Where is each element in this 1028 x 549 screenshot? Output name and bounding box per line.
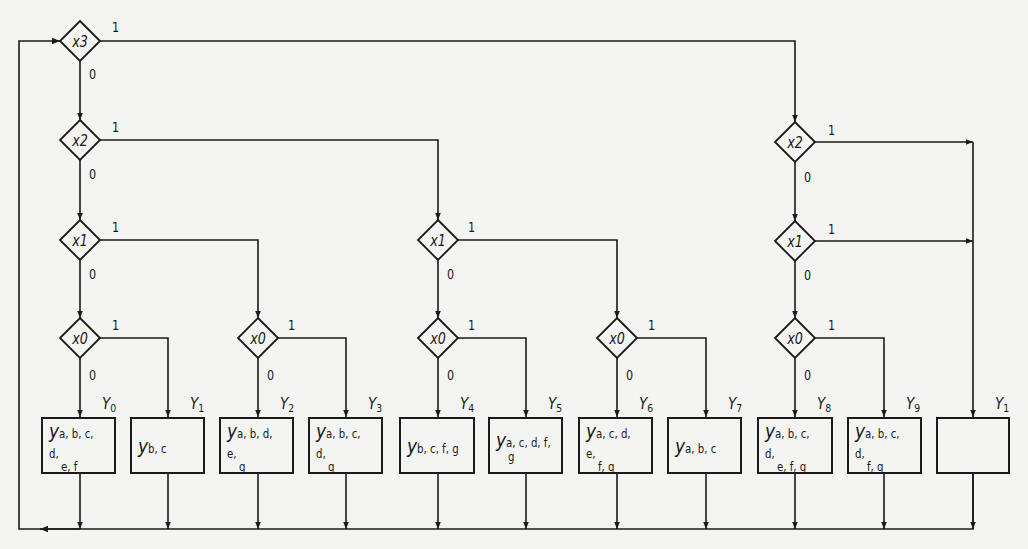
branch-label-0: 0 bbox=[804, 368, 811, 382]
branch-label-1: 1 bbox=[468, 318, 475, 332]
branch-label-0: 0 bbox=[89, 67, 96, 81]
branch-label-0: 0 bbox=[804, 170, 811, 184]
state-box-y7: ya, b, c bbox=[667, 417, 742, 474]
state-box-empty bbox=[936, 417, 1010, 474]
branch-label-0: 0 bbox=[804, 268, 811, 282]
state-box-y8: ya, b, c, d,e, f, g bbox=[757, 417, 833, 474]
branch-label-0: 0 bbox=[89, 167, 96, 181]
state-box-y3: ya, b, c, d,g bbox=[308, 417, 383, 474]
branch-label-1: 1 bbox=[828, 123, 835, 137]
state-label: Y7 bbox=[728, 396, 742, 414]
flowchart-canvas: x3 x2 x1 x0 x0 x1 x0 x0 x2 x1 x0 1 1 1 1… bbox=[0, 0, 1028, 549]
state-label: Y9 bbox=[906, 396, 920, 414]
branch-label-1: 1 bbox=[112, 318, 119, 332]
branch-label-1: 1 bbox=[828, 318, 835, 332]
state-label: Y1 bbox=[995, 396, 1009, 414]
branch-label-1: 1 bbox=[112, 20, 119, 34]
state-label: Y4 bbox=[460, 396, 474, 414]
decision-label: x1 bbox=[430, 234, 446, 249]
branch-label-0: 0 bbox=[89, 368, 96, 382]
state-label: Y8 bbox=[817, 396, 831, 414]
decision-label: x1 bbox=[787, 235, 803, 250]
branch-label-0: 0 bbox=[447, 368, 454, 382]
branch-label-1: 1 bbox=[828, 222, 835, 236]
decision-label: x1 bbox=[72, 234, 88, 249]
branch-label-1: 1 bbox=[288, 318, 295, 332]
branch-label-0: 0 bbox=[89, 267, 96, 281]
decision-label: x0 bbox=[250, 332, 266, 347]
state-label: Y5 bbox=[548, 396, 562, 414]
state-box-y5: ya, c, d, f,g bbox=[488, 417, 563, 474]
state-label: Y3 bbox=[368, 396, 382, 414]
state-label: Y6 bbox=[639, 396, 653, 414]
branch-label-1: 1 bbox=[648, 318, 655, 332]
state-label: Y1 bbox=[190, 396, 204, 414]
state-box-y1: yb, c bbox=[130, 417, 205, 474]
decision-label: x2 bbox=[787, 136, 803, 151]
decision-label: x0 bbox=[72, 332, 88, 347]
state-box-y0: ya, b, c, d,e, f bbox=[41, 417, 116, 474]
state-box-y9: ya, b, c, d,f, g bbox=[847, 417, 922, 474]
state-box-y4: yb, c, f, g bbox=[399, 417, 475, 474]
decision-label: x0 bbox=[609, 332, 625, 347]
state-box-y6: ya, c, d, e,f, g bbox=[578, 417, 653, 474]
decision-label: x0 bbox=[430, 332, 446, 347]
branch-label-0: 0 bbox=[267, 368, 274, 382]
branch-label-1: 1 bbox=[468, 220, 475, 234]
decision-label: x2 bbox=[72, 134, 88, 149]
decision-label: x3 bbox=[72, 35, 88, 50]
state-label: Y0 bbox=[102, 396, 116, 414]
state-box-y2: ya, b, d, e,g bbox=[219, 417, 294, 474]
decision-label: x0 bbox=[787, 332, 803, 347]
branch-label-0: 0 bbox=[626, 368, 633, 382]
branch-label-1: 1 bbox=[112, 120, 119, 134]
branch-label-0: 0 bbox=[447, 267, 454, 281]
state-label: Y2 bbox=[280, 396, 294, 414]
branch-label-1: 1 bbox=[112, 220, 119, 234]
